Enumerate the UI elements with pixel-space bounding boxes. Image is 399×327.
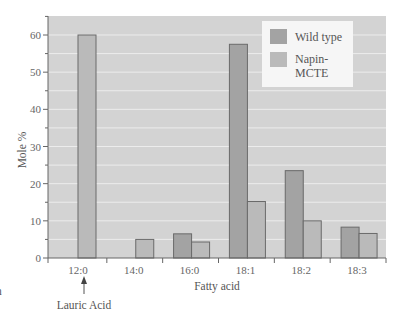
y-tick-label: 40 [30, 103, 42, 115]
x-tick-label: 14:0 [124, 264, 144, 276]
legend-swatch-wild-type [270, 29, 287, 44]
annotation-label: Lauric Acid [57, 299, 112, 311]
bar-wild-type-18-1 [229, 44, 247, 258]
bar-wild-type-18-2 [285, 171, 303, 258]
y-axis-title: Mole % [16, 131, 28, 168]
bar-napin-mcte-18-3 [359, 233, 377, 258]
legend-label-wild-type: Wild type [295, 30, 342, 44]
legend-swatch-napin-mcte [270, 52, 287, 67]
arrow-up-icon [81, 276, 87, 284]
bar-napin-mcte-18-2 [303, 221, 321, 258]
x-tick-labels: 12:014:016:018:118:218:3 [68, 264, 367, 276]
bar-chart: 0102030405060 12:014:016:018:118:218:3 M… [0, 0, 399, 327]
legend-label-napin-mcte-line1: Napin- [295, 52, 328, 66]
legend-label-napin-mcte-line2: MCTE [295, 66, 328, 80]
y-tick-label: 10 [30, 215, 42, 227]
bar-napin-mcte-14-0 [136, 239, 154, 258]
cropped-text-fragment: n [0, 285, 2, 297]
legend: Wild type Napin- MCTE [262, 21, 353, 87]
y-tick-label: 60 [30, 29, 42, 41]
y-tick-label: 50 [30, 66, 42, 78]
bar-napin-mcte-18-1 [247, 202, 265, 258]
y-tick-label: 30 [30, 141, 42, 153]
x-tick-label: 18:1 [236, 264, 256, 276]
x-tick-label: 16:0 [180, 264, 200, 276]
x-tick-label: 18:3 [347, 264, 367, 276]
y-tick-label: 0 [36, 252, 42, 264]
x-tick-label: 12:0 [68, 264, 88, 276]
y-tick-labels: 0102030405060 [30, 29, 42, 264]
x-tick-label: 18:2 [291, 264, 311, 276]
bar-napin-mcte-12-0 [78, 35, 96, 258]
y-tick-label: 20 [30, 178, 42, 190]
bar-napin-mcte-16-0 [192, 242, 210, 258]
x-axis-title: Fatty acid [194, 280, 240, 293]
bar-wild-type-16-0 [174, 234, 192, 258]
bar-wild-type-18-3 [341, 227, 359, 258]
lauric-acid-annotation: Lauric Acid [57, 276, 112, 311]
